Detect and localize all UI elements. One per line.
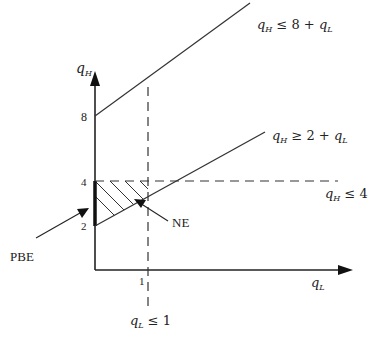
ne-label: NE bbox=[172, 215, 189, 230]
pbe-label: PBE bbox=[10, 249, 34, 264]
y-axis-label: qH bbox=[76, 60, 93, 78]
pbe-arrow-line bbox=[36, 213, 80, 238]
upper-constraint-line bbox=[95, 3, 250, 116]
y-tick-2: 2 bbox=[81, 220, 87, 232]
y-tick-8: 8 bbox=[81, 110, 87, 124]
x-tick-1: 1 bbox=[139, 275, 145, 287]
x-axis-arrowhead-icon bbox=[338, 265, 353, 275]
ne-arrow-line bbox=[143, 205, 168, 221]
horizontal-constraint-label: qH ≤ 4 bbox=[325, 186, 368, 203]
pbe-arrowhead-icon bbox=[77, 208, 89, 218]
upper-constraint-label: qH ≤ 8 + qL bbox=[257, 17, 333, 34]
vertical-constraint-label: qL ≤ 1 bbox=[130, 313, 171, 330]
x-axis-label: qL bbox=[311, 275, 325, 292]
lower-constraint-label: qH ≥ 2 + qL bbox=[272, 128, 348, 145]
constraint-diagram: qH qL 8 4 2 1 qH ≤ 8 + qL qH ≥ 2 + qL qH… bbox=[0, 0, 376, 344]
lower-constraint-line bbox=[95, 132, 265, 226]
y-tick-4: 4 bbox=[81, 176, 87, 188]
